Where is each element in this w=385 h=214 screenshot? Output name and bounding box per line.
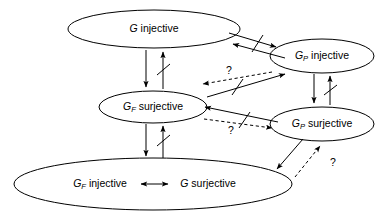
g-injective-label: G injective	[129, 22, 178, 34]
edge-equivalence-to-gp-surjective-unknown	[295, 146, 320, 177]
edge-gp-surjective-to-gf-surjective-negated	[205, 107, 278, 122]
question-mark-lower: ?	[330, 156, 336, 168]
edge-gp-injective-to-g-injective-negated	[233, 44, 285, 58]
equivalence-left-label: GF injective	[73, 177, 127, 191]
question-mark-upper: ?	[226, 64, 232, 76]
question-mark-middle: ?	[228, 124, 234, 136]
diagram-canvas: G injective GP injective GF surjective G…	[0, 0, 385, 214]
gf-surjective-label: GF surjective	[123, 100, 183, 114]
negation-slash-icon	[252, 35, 263, 52]
edge-gf-surjective-to-gp-surjective-unknown	[204, 119, 272, 128]
edge-gp-surjective-to-equivalence	[277, 139, 303, 169]
edge-gp-injective-to-gf-surjective-unknown	[203, 72, 272, 84]
gp-surjective-label: GP surjective	[292, 117, 353, 131]
gp-injective-label: GP injective	[295, 49, 349, 63]
edge-gf-surjective-to-gp-injective-negated	[207, 74, 285, 97]
implication-diagram: G injective GP injective GF surjective G…	[0, 0, 385, 214]
equivalence-right-label: G surjective	[180, 177, 236, 189]
